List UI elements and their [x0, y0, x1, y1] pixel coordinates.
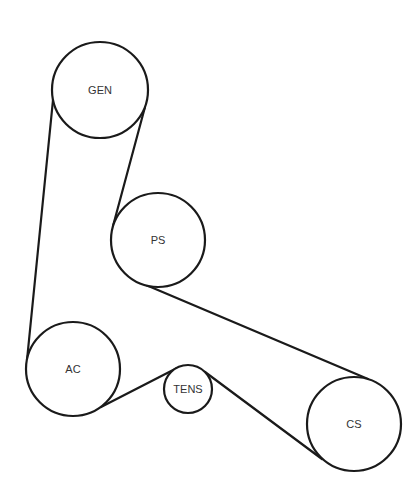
pulley-cs: CS	[307, 377, 401, 471]
belt-segment-cs-tens	[205, 372, 322, 459]
pulley-label: AC	[65, 363, 80, 375]
pulleys: GENPSACTENSCS	[26, 42, 401, 471]
pulley-label: CS	[346, 418, 361, 430]
belt-segment-ps-cs	[146, 285, 368, 379]
belt-routing-diagram: GENPSACTENSCS	[0, 0, 420, 496]
pulley-gen: GEN	[52, 42, 148, 138]
pulley-ps: PS	[111, 193, 205, 287]
pulley-tens: TENS	[164, 365, 212, 413]
pulley-label: GEN	[88, 84, 112, 96]
pulley-label: PS	[151, 234, 166, 246]
pulley-ac: AC	[26, 322, 120, 416]
belt-segment-gen-ac	[27, 100, 53, 360]
pulley-label: TENS	[173, 383, 202, 395]
